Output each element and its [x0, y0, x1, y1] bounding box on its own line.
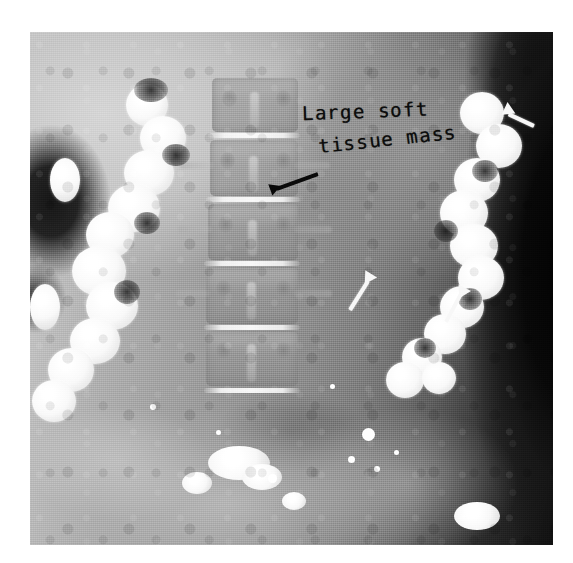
- radiograph-plate: [30, 32, 553, 545]
- radiograph-page: Large soft tissue mass: [0, 0, 573, 563]
- film-grain: [30, 32, 553, 545]
